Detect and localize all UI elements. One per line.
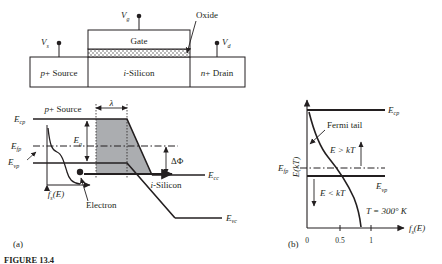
fs-plot-axis-label: fs(E) <box>48 189 64 201</box>
gate-label: Gate <box>131 36 148 46</box>
drain-terminal-label: Vd <box>222 37 232 49</box>
evp-sub: vp <box>14 163 20 169</box>
panel-a-band-diagram: Ecp Ecc Evc Evp Efp fs(E) <box>7 98 237 249</box>
panel-b-caption: (b) <box>288 239 299 249</box>
xtick-label-1: 1 <box>369 236 373 245</box>
source-valence-band-label: Evp <box>7 157 19 169</box>
xtick-label-0: 0 <box>305 236 309 245</box>
efp-sub: fp <box>17 146 22 152</box>
evc-sub: vc <box>232 218 238 224</box>
panel-a-source-label: p+ Source <box>44 104 82 114</box>
source-label-text: + Source <box>45 68 77 78</box>
device-cross-section: Gate p+ Source i-Silicon n+ Drain Vg Vs … <box>30 10 245 87</box>
fs-arg: (E) <box>53 189 65 199</box>
ecp-sub: cp <box>20 119 26 125</box>
tunnel-width-label: λ <box>109 98 114 108</box>
oxide-layer <box>88 49 190 57</box>
drain-label-text: + Drain <box>205 68 233 78</box>
panel-a-source-text: + Source <box>49 104 81 114</box>
above-kt-label: E > kT <box>329 145 356 155</box>
fermi-plot-x-axis-label: fs(E) <box>409 223 425 235</box>
channel-label-text: -Silicon <box>126 68 155 78</box>
eg-sub: g <box>79 141 82 147</box>
ecc-sub: cc <box>214 175 220 181</box>
fermi-tail-label: Fermi tail <box>327 120 363 130</box>
source-label: p+ Source <box>40 68 78 78</box>
panel-b-fermi-plot: E(kT) fs(E) 0 0.5 1 Ecp Efp Evp Fermi ta… <box>277 100 425 249</box>
xtick-label-0p5: 0.5 <box>335 236 345 245</box>
gate-terminal-label-sub: g <box>127 16 130 22</box>
ekt-close: ) <box>291 157 301 161</box>
fermi-plot-ecp-label: Ecp <box>387 105 399 117</box>
electron-dot <box>77 169 83 175</box>
panel-a-caption: (a) <box>13 239 23 249</box>
channel-label: i-Silicon <box>123 68 155 78</box>
channel-valence-band-label: Evc <box>225 213 237 225</box>
fermi-tail-leader <box>310 130 325 144</box>
source-terminal-label-sub: s <box>47 43 50 49</box>
oxide-callout-label: Oxide <box>196 10 218 20</box>
temperature-label: T = 300° K <box>366 206 408 216</box>
panel-a-channel-label: i-Silicon <box>150 180 182 190</box>
gate-terminal-label: Vg <box>121 10 130 22</box>
drain-terminal-dot[interactable] <box>215 41 220 46</box>
figure-root: Gate p+ Source i-Silicon n+ Drain Vg Vs … <box>0 0 442 264</box>
source-terminal-label: Vs <box>41 37 50 49</box>
source-conduction-band-label: Ecp <box>13 114 25 126</box>
channel-conduction-band-label: Ecc <box>207 170 219 182</box>
b-evp-sub: vp <box>382 187 388 193</box>
below-kt-label: E < kT <box>319 188 346 198</box>
fermi-plot-y-axis-label: E(kT) <box>291 157 301 179</box>
electron-leader <box>81 178 88 201</box>
evp-leader <box>27 152 36 160</box>
fermi-plot-evp-label: Evp <box>375 181 387 193</box>
fermi-plot-efp-label: Efp <box>277 163 288 175</box>
barrier-lowering-label: ΔΦ <box>171 156 184 166</box>
b-efp-sub: fp <box>284 168 289 174</box>
source-terminal-dot[interactable] <box>57 41 62 46</box>
drain-label: n+ Drain <box>201 68 234 78</box>
source-fermi-level-label: Efp <box>10 141 21 153</box>
drain-terminal-label-sub: d <box>228 43 232 49</box>
bandgap-label: Eg <box>73 135 83 147</box>
figure-svg: Gate p+ Source i-Silicon n+ Drain Vg Vs … <box>0 0 442 264</box>
tunnel-barrier-shaded-region <box>96 119 152 175</box>
fb-arg: (E) <box>414 223 426 233</box>
electron-label: Electron <box>86 200 117 210</box>
figure-caption-id: FIGURE 13.4 <box>4 255 55 264</box>
b-ecp-sub: cp <box>394 110 400 116</box>
panel-a-channel-text: -Silicon <box>153 180 182 190</box>
gate-terminal-dot[interactable] <box>137 14 142 19</box>
